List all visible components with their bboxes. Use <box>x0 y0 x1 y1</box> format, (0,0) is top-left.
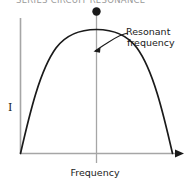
annotation-leader-line <box>104 33 128 45</box>
x-axis-label: Frequency <box>0 167 190 178</box>
annotation-line-2: frequency <box>127 38 175 49</box>
resonant-peak-dot <box>92 7 100 15</box>
x-axis-arrowhead <box>175 150 184 158</box>
resonant-frequency-annotation: Resonant frequency <box>126 27 175 48</box>
y-axis-label: I <box>8 101 12 114</box>
annotation-line-1: Resonant <box>126 26 170 37</box>
resonance-figure: SERIES CIRCUIT RESONANCE Resonant freque… <box>0 0 190 183</box>
